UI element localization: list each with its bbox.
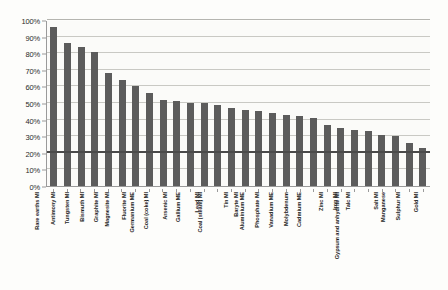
x-axis-tick-mark [217, 189, 218, 192]
x-axis-tick-label: Aluminium ME [239, 192, 245, 230]
x-axis-tick-label: Tin MI [223, 192, 229, 208]
x-axis-label-slot: Coal (steam) MI [211, 189, 224, 288]
y-axis-tick-label: 30% [26, 133, 40, 142]
bar [255, 111, 262, 186]
x-axis-tick-mark [409, 189, 410, 192]
bar [269, 113, 276, 186]
x-axis-tick-label: Phosphate MI [254, 192, 260, 228]
x-axis-tick-label: Magnesite MI [104, 192, 110, 227]
x-axis-category-labels: Rare earths MIAntimony MITungsten MIBism… [46, 189, 430, 288]
y-axis-tick-label: 10% [26, 166, 40, 175]
bar [242, 110, 249, 186]
x-axis-tick-label: Arsenic MI [162, 192, 168, 220]
x-axis-tick-label: Fluorite MI [121, 192, 127, 220]
x-axis-tick-label: Vanadium ME [268, 192, 274, 228]
x-axis-tick-mark [423, 189, 424, 192]
x-axis-tick-label: Manganese [380, 192, 386, 222]
x-axis-tick-label: Coal (steam) MI [197, 192, 203, 233]
x-axis-tick-label: Bismuth MI [79, 192, 85, 222]
x-axis-tick-label: Gallium ME [175, 192, 181, 222]
bar [119, 80, 126, 186]
bar [91, 52, 98, 186]
bar [337, 128, 344, 186]
bar [378, 135, 385, 186]
x-axis-tick-mark [327, 189, 328, 192]
x-axis-tick-label: Coal (coke) MI [144, 192, 150, 229]
x-axis-tick-mark [204, 189, 205, 192]
x-axis-label-slot: Talc MI [348, 189, 361, 288]
bar [50, 27, 57, 186]
bar [324, 125, 331, 186]
x-axis-tick-label: Antimony MI [50, 192, 56, 225]
y-axis: 0%10%20%30%40%50%60%70%80%90%100% [0, 0, 46, 290]
x-axis-label-slot: Gold MI [416, 189, 429, 288]
x-axis-tick-mark [135, 189, 136, 192]
bar [146, 93, 153, 186]
bar [214, 105, 221, 186]
x-axis-tick-label: Tungsten MI [64, 192, 70, 224]
x-axis-tick-mark [190, 189, 191, 192]
x-axis-tick-label: Talc MI [345, 192, 351, 210]
x-axis-tick-mark [341, 189, 342, 192]
x-axis-tick-mark [354, 189, 355, 192]
bar [201, 103, 208, 186]
y-axis-tick-label: 50% [26, 100, 40, 109]
bar [392, 136, 399, 186]
x-axis-tick-label: Rare earths MI [34, 192, 40, 230]
y-axis-tick-label: 90% [26, 33, 40, 42]
y-axis-tick-label: 40% [26, 116, 40, 125]
x-axis-tick-label: Sulphur MI [395, 192, 401, 220]
y-axis-tick-label: 100% [22, 17, 40, 26]
y-axis-tick-label: 0% [30, 183, 40, 192]
x-axis-tick-label: Cadmium ME [296, 192, 302, 227]
x-axis-tick-label: Salt MI [373, 192, 379, 210]
plot-area [46, 21, 430, 187]
bar [406, 143, 413, 186]
bar [365, 131, 372, 186]
y-axis-tick-label: 60% [26, 83, 40, 92]
bar [351, 130, 358, 186]
bar [64, 43, 71, 186]
x-axis-tick-label: Zinc MI [317, 192, 323, 211]
x-axis-tick-label: Gypsum and anhydrite MI [334, 192, 340, 259]
bar [78, 47, 85, 186]
bar-series [47, 21, 430, 186]
y-axis-tick-label: 20% [26, 149, 40, 158]
x-axis-tick-label: Molybdenum [283, 192, 289, 226]
x-axis-tick-label: Baryte MI [232, 192, 238, 217]
chart-figure: 0%10%20%30%40%50%60%70%80%90%100% Rare e… [0, 0, 448, 290]
y-axis-tick-label: 80% [26, 50, 40, 59]
x-axis-tick-label: Gold MI [413, 192, 419, 212]
x-axis-tick-mark [313, 189, 314, 192]
x-axis-tick-mark [368, 189, 369, 192]
bar [173, 101, 180, 186]
x-axis-tick-label: Germanium ME [129, 192, 135, 232]
bar [105, 73, 112, 186]
reference-line-20pct [47, 151, 430, 153]
bar [228, 108, 235, 186]
y-axis-tick-label: 70% [26, 66, 40, 75]
gridline [47, 19, 430, 20]
bar [187, 103, 194, 186]
bar [132, 86, 139, 186]
x-axis-tick-label: Graphite MI [93, 192, 99, 222]
bar [160, 100, 167, 186]
bar [419, 148, 426, 186]
